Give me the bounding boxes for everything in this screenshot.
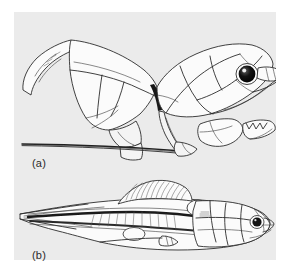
panel-label-b: (b) <box>32 250 46 261</box>
figure-plate: (a) (b) <box>14 12 276 260</box>
panel-label-a: (a) <box>32 158 46 169</box>
eye-b <box>250 216 264 229</box>
figure-root: (a) (b) <box>0 0 289 272</box>
panel-b-drawing <box>14 12 276 260</box>
panel-b <box>14 12 276 260</box>
